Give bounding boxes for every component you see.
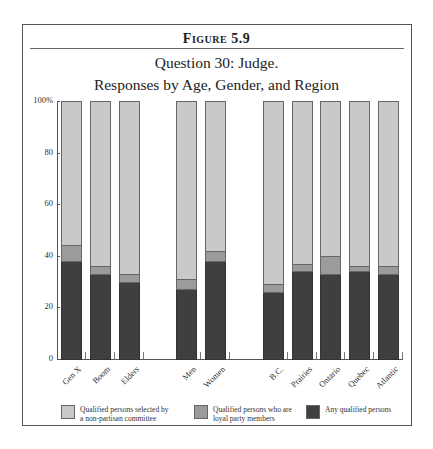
legend-label: Qualified persons selected bya non-parti… (80, 405, 169, 423)
bar-segment-light (61, 101, 82, 246)
y-tick (57, 359, 60, 360)
bar-segment-mid (176, 279, 197, 290)
x-tick (373, 352, 374, 359)
bar-segment-dark (176, 289, 197, 360)
bar-segment-light (176, 101, 197, 280)
x-tick (344, 352, 345, 359)
bar-segment-light (263, 101, 284, 285)
y-tick-label: 60 (23, 198, 53, 208)
bar-segment-light (119, 101, 140, 275)
legend-item: Any qualified persons (306, 405, 391, 419)
bar-segment-light (90, 101, 111, 267)
legend-item: Qualified persons selected bya non-parti… (61, 405, 169, 423)
y-tick (57, 153, 60, 154)
y-tick-label: 100% (23, 95, 53, 105)
y-tick (57, 256, 60, 257)
legend-item: Qualified persons who areloyal party mem… (194, 405, 292, 423)
y-tick-label: 80 (23, 147, 53, 157)
bar-segment-mid (320, 256, 341, 275)
x-tick (143, 352, 144, 359)
y-tick (57, 204, 60, 205)
bar-segment-mid (263, 284, 284, 293)
x-tick (316, 352, 317, 359)
legend-swatch (194, 405, 208, 419)
bar-segment-light (292, 101, 313, 265)
x-tick (114, 352, 115, 359)
bar-segment-mid (119, 274, 140, 283)
bar-segment-dark (292, 271, 313, 360)
y-tick-label: 0 (23, 353, 53, 363)
bar-segment-light (378, 101, 399, 267)
y-tick (57, 307, 60, 308)
bar-segment-mid (292, 264, 313, 273)
bar-segment-dark (205, 261, 226, 360)
x-tick (287, 352, 288, 359)
y-axis (57, 101, 58, 359)
x-tick (85, 352, 86, 359)
bar-segment-mid (90, 266, 111, 275)
x-tick (200, 352, 201, 359)
x-tick (229, 352, 230, 359)
bar-segment-dark (119, 282, 140, 360)
bar-segment-light (205, 101, 226, 252)
bar-segment-dark (263, 292, 284, 360)
legend-label: Any qualified persons (325, 405, 391, 414)
bar-segment-mid (378, 266, 399, 275)
bar-segment-dark (320, 274, 341, 360)
plot-area: 020406080100%Gen XBoomEldersMenWomenB.C.… (0, 0, 433, 449)
bar-segment-dark (90, 274, 111, 360)
bar-segment-dark (378, 274, 399, 360)
bar-segment-dark (349, 271, 370, 360)
bar-segment-dark (61, 261, 82, 360)
bar-segment-light (349, 101, 370, 267)
y-tick (57, 101, 60, 102)
bar-segment-mid (205, 251, 226, 262)
bar-segment-light (320, 101, 341, 257)
x-tick (402, 352, 403, 359)
y-tick-label: 20 (23, 301, 53, 311)
legend-swatch (306, 405, 320, 419)
legend-swatch (61, 405, 75, 419)
legend-label: Qualified persons who areloyal party mem… (213, 405, 292, 423)
bar-segment-mid (61, 245, 82, 261)
y-tick-label: 40 (23, 250, 53, 260)
